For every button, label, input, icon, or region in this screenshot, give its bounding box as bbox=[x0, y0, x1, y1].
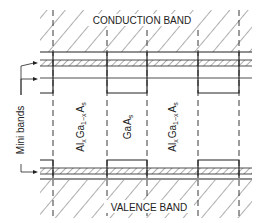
arrow-conduction-lower bbox=[21, 79, 34, 95]
conduction-band: CONDUCTION BAND bbox=[40, 10, 252, 52]
svg-text:GaAs: GaAs bbox=[122, 114, 134, 139]
layer-label-gaas: GaAs bbox=[122, 114, 134, 139]
valence-band: VALENCE BAND bbox=[40, 180, 252, 218]
valence-miniband bbox=[40, 168, 252, 174]
minibands-annotation: Mini bands bbox=[15, 61, 38, 174]
superlattice-diagram: CONDUCTION BAND AlxGa1−xAs GaAs AlxGa1 bbox=[0, 0, 266, 223]
layer-label-algaas-1: AlxGa1−xAs bbox=[75, 102, 87, 152]
arrow-valence bbox=[21, 164, 34, 172]
svg-text:AlxGa1−xAs: AlxGa1−xAs bbox=[75, 102, 87, 152]
conduction-miniband bbox=[40, 60, 252, 78]
conduction-band-label: CONDUCTION BAND bbox=[93, 15, 191, 26]
valence-band-label: VALENCE BAND bbox=[111, 202, 188, 213]
layer-label-algaas-2: AlxGa1−xAs bbox=[167, 102, 179, 152]
minibands-label: Mini bands bbox=[15, 106, 26, 154]
svg-text:AlxGa1−xAs: AlxGa1−xAs bbox=[167, 102, 179, 152]
conduction-well-profile bbox=[40, 52, 239, 93]
